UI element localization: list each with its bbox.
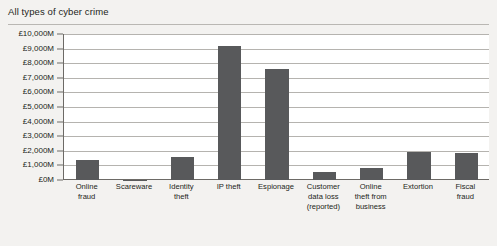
y-axis-label: £0M — [38, 176, 54, 184]
x-axis-category-label: Onlinetheft frombusiness — [347, 182, 394, 213]
x-axis-label-line: Scareware — [110, 182, 157, 192]
x-axis-label-line: IP theft — [205, 182, 252, 192]
x-axis-label-line: business — [347, 202, 394, 212]
x-axis-label-line: (reported) — [300, 202, 347, 212]
y-axis-label: £1,000M — [23, 161, 54, 169]
y-axis-label: £7,000M — [23, 74, 54, 82]
figure-root: All types of cyber crime £10,000M£9,000M… — [0, 0, 497, 246]
x-axis-label-line: fraud — [63, 192, 110, 202]
x-axis-label-line: fraud — [442, 192, 489, 202]
y-axis-label: £9,000M — [23, 45, 54, 53]
x-axis-category-label: Extortion — [394, 182, 441, 192]
x-axis-label-line: Fiscal — [442, 182, 489, 192]
x-axis-label-line: theft — [158, 192, 205, 202]
x-axis-category-label: Fiscalfraud — [442, 182, 489, 202]
x-axis-label-line: data loss — [300, 192, 347, 202]
title-divider — [8, 24, 489, 25]
x-axis-label-line: Extortion — [394, 182, 441, 192]
y-axis-label: £4,000M — [23, 118, 54, 126]
x-axis-category-label: Onlinefraud — [63, 182, 110, 202]
x-axis-category-label: Customerdata loss(reported) — [300, 182, 347, 213]
bar[interactable] — [76, 160, 100, 180]
bar[interactable] — [171, 157, 195, 180]
x-axis-category-label: IP theft — [205, 182, 252, 192]
x-axis-category-label: Scareware — [110, 182, 157, 192]
y-axis-label: £10,000M — [18, 30, 54, 38]
y-axis-label: £6,000M — [23, 88, 54, 96]
chart-title: All types of cyber crime — [8, 6, 109, 17]
x-axis-label-line: Online — [63, 182, 110, 192]
x-axis-label-line: theft from — [347, 192, 394, 202]
x-axis-category-label: Espionage — [252, 182, 299, 192]
y-axis-label: £2,000M — [23, 147, 54, 155]
bars-layer — [64, 34, 489, 180]
y-axis-label: £5,000M — [23, 103, 54, 111]
bar[interactable] — [407, 152, 431, 180]
x-axis-label-line: Customer — [300, 182, 347, 192]
plot-area — [63, 34, 489, 180]
y-axis-label: £8,000M — [23, 59, 54, 67]
y-axis-label: £3,000M — [23, 132, 54, 140]
bar[interactable] — [455, 153, 479, 180]
bar[interactable] — [313, 172, 337, 180]
y-axis: £10,000M£9,000M£8,000M£7,000M£6,000M£5,0… — [0, 34, 63, 180]
x-axis-category-label: Identitytheft — [158, 182, 205, 202]
bar[interactable] — [265, 69, 289, 180]
x-axis-label-line: Online — [347, 182, 394, 192]
bar[interactable] — [218, 46, 242, 180]
bar[interactable] — [360, 168, 384, 180]
x-axis: OnlinefraudScarewareIdentitytheftIP thef… — [63, 182, 489, 242]
x-axis-label-line: Identity — [158, 182, 205, 192]
x-axis-label-line: Espionage — [252, 182, 299, 192]
